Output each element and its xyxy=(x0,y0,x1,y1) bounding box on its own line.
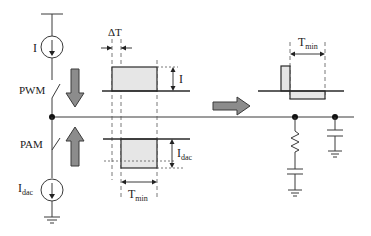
ground-icon xyxy=(44,217,60,223)
arrow-down-icon xyxy=(49,51,55,56)
label-pam: PAM xyxy=(20,138,43,150)
delta-t-annotation: ΔT xyxy=(101,26,132,51)
resistor-icon xyxy=(291,117,299,169)
ground-icon xyxy=(328,151,342,157)
label-idac: Idac xyxy=(18,181,34,197)
switch-pwm: PWM xyxy=(19,58,60,117)
label-pulse-i: I xyxy=(179,72,183,86)
label-delta-t: ΔT xyxy=(108,26,122,38)
output-waveform: Tmin xyxy=(258,35,344,99)
timing-guides xyxy=(112,39,157,198)
down-arrow-icon xyxy=(66,69,84,107)
label-pwm: PWM xyxy=(19,84,46,96)
label-tmin-bottom: Tmin xyxy=(128,187,148,203)
arrow-down-icon xyxy=(49,194,55,199)
right-arrow-icon xyxy=(213,97,250,115)
label-pulse-idac: Idac xyxy=(177,146,193,162)
supply-rail xyxy=(41,14,63,36)
switch-pam: PAM xyxy=(20,117,60,178)
pam-pulse: Idac Tmin xyxy=(103,139,193,203)
pwm-pam-diagram: I PWM PAM Idac xyxy=(0,0,371,236)
pwm-pulse: I xyxy=(102,67,190,91)
label-i: I xyxy=(33,41,37,55)
current-source-i: I xyxy=(33,36,63,58)
capacitor-icon xyxy=(287,169,303,190)
up-arrow-icon xyxy=(66,127,84,166)
label-tmin-right: Tmin xyxy=(298,35,318,51)
capacitor-icon xyxy=(327,117,343,151)
ground-icon xyxy=(288,190,302,196)
current-source-idac: Idac xyxy=(18,179,63,217)
